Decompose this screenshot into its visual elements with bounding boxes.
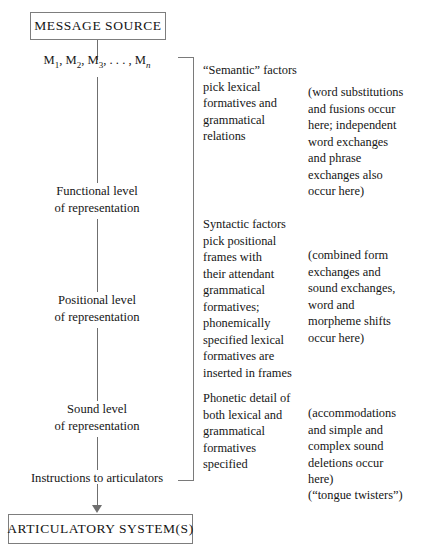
span-bracket-tick-top [178, 57, 194, 58]
production-model-diagram: MESSAGE SOURCE M1, M2, M3, . . . , Mn Fu… [0, 0, 423, 555]
arrow-down-icon [92, 505, 102, 513]
spine-segment-sound-to-instructions [97, 437, 98, 470]
stage-label-sound-level: Sound level of representation [0, 401, 197, 434]
node-articulatory-system: ARTICULATORY SYSTEM(S) [8, 514, 193, 544]
annotation-syntactic-description: Syntactic factors pick positional frames… [203, 216, 307, 381]
span-bracket-rule [193, 57, 194, 481]
stage-label-positional-level: Positional level of representation [0, 292, 197, 325]
spine-segment-instructions-to-articulatory [97, 484, 98, 506]
annotation-semantic-description: “Semantic” factors pick lexical formativ… [203, 62, 307, 145]
spine-segment-messages-to-functional [97, 77, 98, 183]
stage-label-messages: M1, M2, M3, . . . , Mn [0, 52, 197, 73]
annotation-phonetic-description: Phonetic detail of both lexical and gram… [203, 390, 307, 473]
node-articulatory-system-label: ARTICULATORY SYSTEM(S) [7, 521, 193, 537]
annotation-phonetic-errors: (accommodations and simple and complex s… [308, 405, 420, 488]
node-message-source-label: MESSAGE SOURCE [34, 18, 161, 34]
annotation-semantic-errors: (word substitutions and fusions occur he… [308, 84, 420, 200]
span-bracket-tick-bottom [178, 480, 194, 481]
spine-segment-functional-to-positional [97, 219, 98, 292]
annotation-tongue-twisters: (“tongue twisters”) [308, 487, 420, 504]
stage-label-instructions: Instructions to articulators [0, 470, 197, 487]
spine-segment-positional-to-sound [97, 328, 98, 401]
stage-label-functional-level: Functional level of representation [0, 183, 197, 216]
node-message-source: MESSAGE SOURCE [30, 12, 166, 40]
annotation-syntactic-errors: (combined form exchanges and sound excha… [308, 247, 420, 346]
span-bracket [178, 57, 194, 481]
